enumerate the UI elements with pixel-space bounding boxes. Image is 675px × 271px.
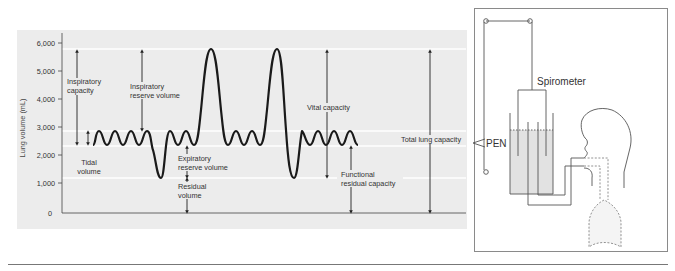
label-tidal-volume-2: volume <box>77 167 101 176</box>
y-tick-0: 0 <box>48 209 52 218</box>
figure-canvas: 6,000 5,000 4,000 3,000 2,000 1,000 0 Lu… <box>0 0 675 271</box>
label-irv-2: reserve volume <box>130 91 180 100</box>
label-frc-2: residual capacity <box>341 179 396 188</box>
y-tick-4000: 4,000 <box>37 95 55 104</box>
label-vital-capacity: Vital capacity <box>307 103 350 112</box>
y-tick-2000: 2,000 <box>37 151 55 160</box>
label-total-lung-capacity: Total lung capacity <box>401 135 461 144</box>
label-inspiratory-capacity-2: capacity <box>67 86 94 95</box>
label-erv-2: reserve volume <box>178 163 228 172</box>
y-tick-1000: 1,000 <box>37 179 55 188</box>
spirometer-label: Spirometer <box>537 76 587 87</box>
spirometer-apparatus <box>484 19 631 205</box>
airway-lungs <box>584 158 621 247</box>
water-chamber <box>510 130 553 194</box>
head-outline <box>581 108 631 188</box>
pen-label: PEN <box>486 138 507 149</box>
y-tick-3000: 3,000 <box>37 123 55 132</box>
label-residual-volume-2: volume <box>178 191 202 200</box>
reference-bands <box>62 49 466 178</box>
y-axis-title: Lung volume (mL) <box>18 99 27 158</box>
y-tick-6000: 6,000 <box>37 39 55 48</box>
pen-icon <box>473 139 485 147</box>
lungs-outline <box>589 200 621 247</box>
y-tick-5000: 5,000 <box>37 67 55 76</box>
y-axis: 6,000 5,000 4,000 3,000 2,000 1,000 0 Lu… <box>18 33 466 218</box>
